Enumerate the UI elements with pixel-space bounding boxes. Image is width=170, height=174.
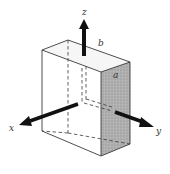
z-axis-label: z — [81, 7, 87, 17]
dimension-label-a: a — [113, 70, 118, 80]
dimension-label-b: b — [98, 38, 104, 48]
y-axis-label: y — [155, 126, 162, 136]
block-diagram: z x y b a — [0, 0, 170, 174]
x-axis-arrow — [19, 104, 78, 126]
x-axis-label: x — [9, 123, 14, 133]
